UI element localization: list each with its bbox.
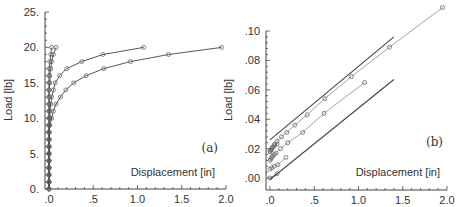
x-tick-label: 1.0 [351, 194, 366, 206]
y-tick-label: .08 [245, 54, 260, 66]
panel-b: .0.51.01.52.0.00.02.04.06.08.10Displacem… [222, 5, 455, 206]
y-tick-label: 0. [30, 183, 39, 195]
data-marker [363, 80, 367, 84]
series-line [49, 47, 144, 189]
x-tick-label: .5 [89, 193, 98, 205]
x-tick-label: .0 [44, 193, 53, 205]
x-tick-label: .0 [265, 194, 274, 206]
y-tick-label: .10 [245, 25, 260, 37]
x-tick-label: 2.0 [218, 193, 233, 205]
x-axis-title: Displacement [in] [356, 166, 440, 178]
y-tick-label: .06 [245, 84, 260, 96]
y-tick-label: .04 [245, 113, 260, 125]
y-tick-label: 15. [24, 77, 39, 89]
y-tick-label: 5. [30, 148, 39, 160]
series-line [270, 37, 394, 140]
y-axis-title: Load [lb] [2, 79, 14, 121]
panel-label: (b) [426, 135, 443, 149]
figure: .0.51.01.52.00.5.10.15.20.25.Displacemen… [0, 0, 459, 207]
x-tick-label: 1.0 [130, 193, 145, 205]
series-line [270, 80, 394, 180]
series-line [270, 83, 365, 161]
panel-a: .0.51.01.52.00.5.10.15.20.25.Displacemen… [2, 6, 234, 205]
y-tick-label: .02 [245, 143, 260, 155]
x-tick-label: .5 [310, 194, 319, 206]
series-line [270, 8, 443, 152]
x-axis-title: Displacement [in] [131, 166, 215, 178]
data-marker [284, 155, 288, 159]
y-tick-label: 25. [24, 6, 39, 18]
x-tick-label: 2.0 [439, 194, 454, 206]
x-tick-label: 1.5 [395, 194, 410, 206]
x-tick-label: 1.5 [174, 193, 189, 205]
y-tick-label: 10. [24, 112, 39, 124]
panel-label: (a) [201, 141, 218, 155]
y-axis-title: Load [lb] [222, 79, 234, 121]
y-tick-label: .00 [245, 172, 260, 184]
y-tick-label: 20. [24, 41, 39, 53]
